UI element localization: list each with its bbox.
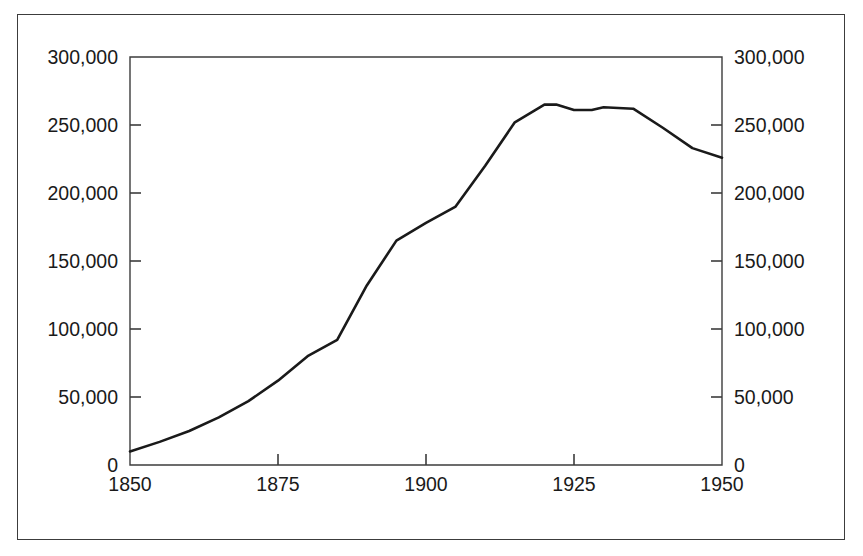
y-axis-right-label-200000: 200,000 (734, 182, 805, 205)
y-axis-right-label-100000: 100,000 (734, 318, 805, 341)
y-axis-right-ticks (711, 125, 722, 397)
x-axis-label-1900: 1900 (404, 473, 447, 496)
data-line-series-value (130, 105, 722, 452)
y-axis-right-label-50000: 50,000 (734, 386, 794, 409)
data-series-group (130, 105, 722, 452)
y-axis-left-label-250000: 250,000 (8, 114, 118, 137)
x-axis-label-1950: 1950 (700, 473, 743, 496)
y-axis-left-label-0: 0 (8, 454, 118, 477)
x-axis-ticks (278, 454, 574, 465)
y-axis-left-label-100000: 100,000 (8, 318, 118, 341)
y-axis-left-label-300000: 300,000 (8, 46, 118, 69)
x-axis-label-1875: 1875 (256, 473, 299, 496)
y-axis-right-label-150000: 150,000 (734, 250, 805, 273)
y-axis-left-label-200000: 200,000 (8, 182, 118, 205)
x-axis-label-1850: 1850 (108, 473, 151, 496)
x-axis-label-1925: 1925 (552, 473, 595, 496)
plot-axes (130, 57, 722, 465)
chart-figure: 0050,00050,000100,000100,000150,000150,0… (0, 0, 863, 556)
y-axis-left-label-50000: 50,000 (8, 386, 118, 409)
y-axis-left-label-150000: 150,000 (8, 250, 118, 273)
y-axis-left-ticks (130, 125, 141, 397)
plot-area-border (130, 57, 722, 465)
y-axis-right-label-300000: 300,000 (734, 46, 805, 69)
y-axis-right-label-250000: 250,000 (734, 114, 805, 137)
